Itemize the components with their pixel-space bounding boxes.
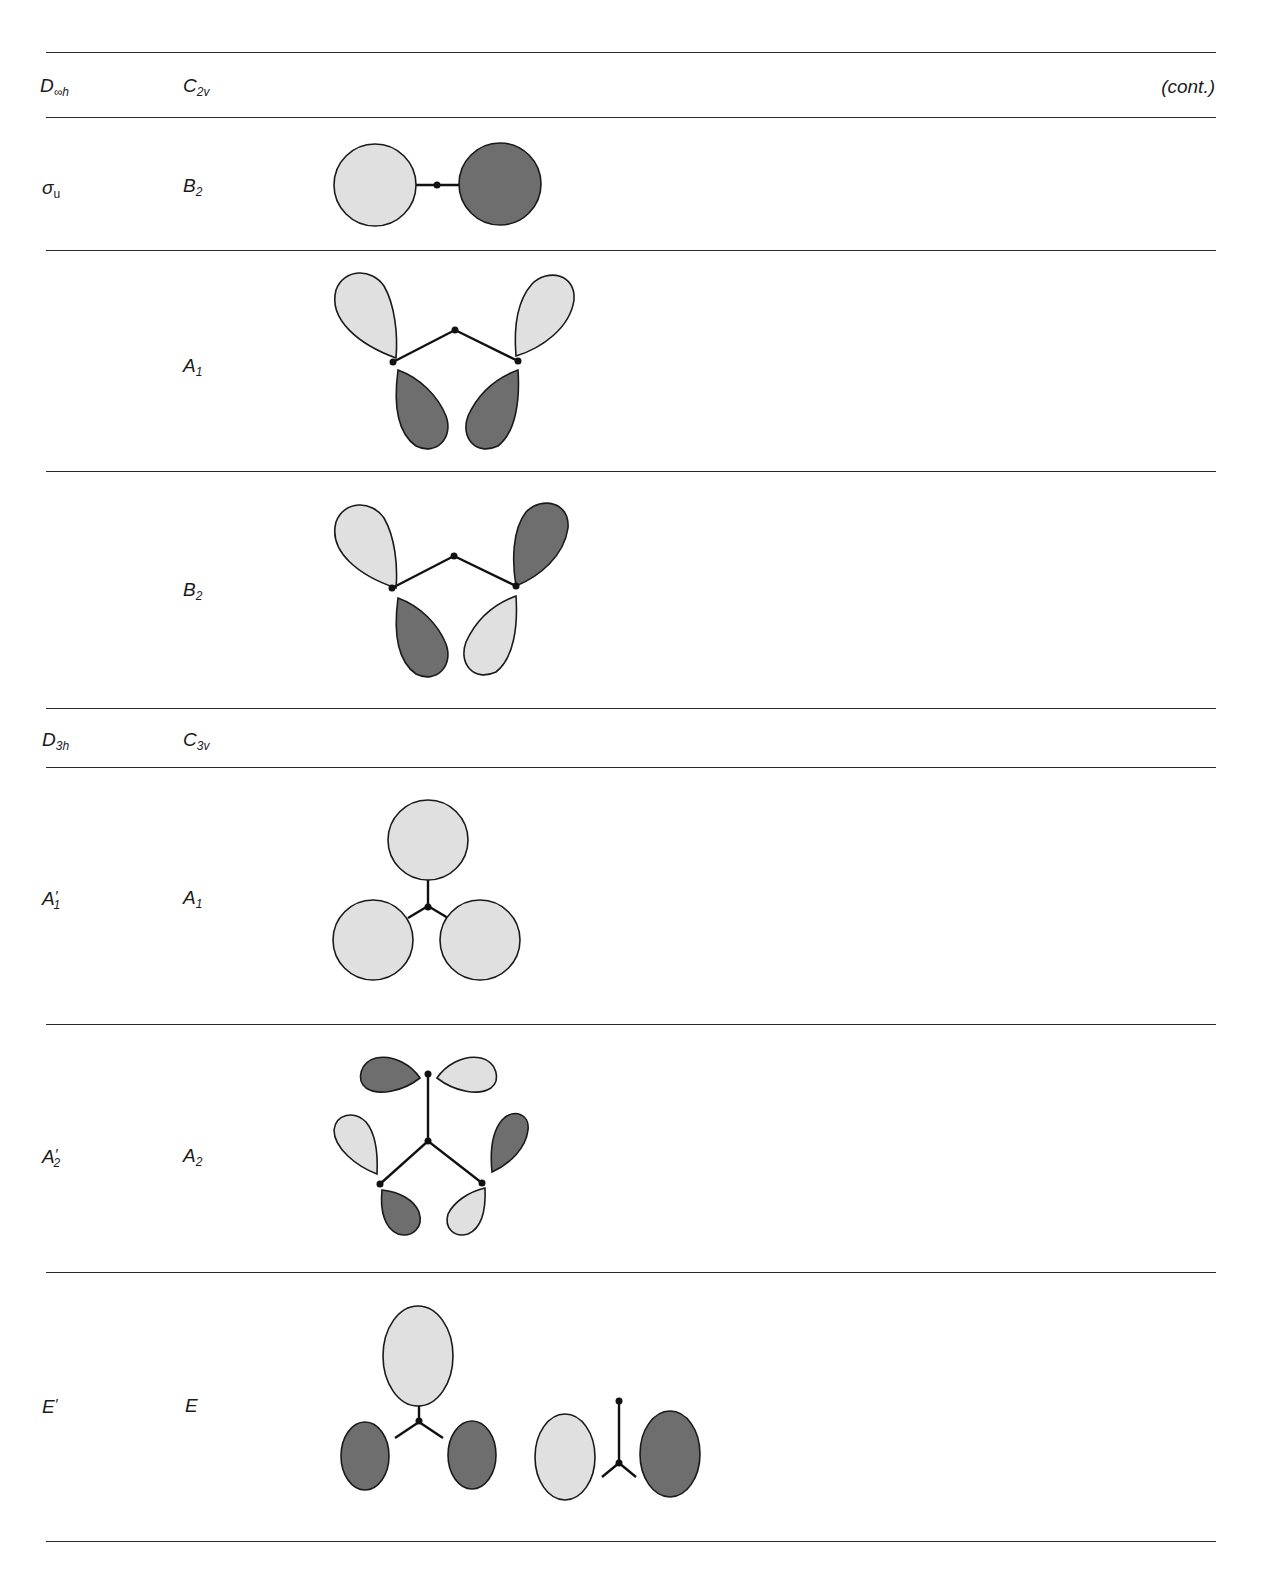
table-rule-header [46,117,1216,118]
label-base: E [42,1396,55,1417]
orbital-diagram-linear-b2 [320,130,560,240]
label-base: B [183,175,196,196]
orbital-diagram-bent-a1 [320,260,590,460]
table-rule-section [46,708,1216,709]
row-low-label: A2 [183,1146,202,1168]
header-group-high: D3h [42,730,69,752]
label-base: A [42,888,55,909]
label-sub: 1 [196,897,203,911]
header-group-low: C2v [183,76,209,98]
row-low-label: A1 [183,888,202,910]
header-group-low: C3v [183,730,209,752]
row-low-label: E [185,1396,198,1415]
label-sub: 2 [54,1156,61,1170]
row-high-label: E′ [42,1396,58,1416]
label-sub: 1 [196,365,203,379]
row-high-label: σu [42,178,60,200]
label-base: σ [42,177,53,198]
label-base: A [183,1145,196,1166]
table-rule-row [46,250,1216,251]
label-base: A [183,355,196,376]
table-rule-bottom [46,1541,1216,1542]
label-sub: 2v [197,85,210,99]
label-base: C [183,75,197,96]
label-base: C [183,729,197,750]
orbital-diagram-trigonal-e-component-1 [320,1300,520,1500]
row-low-label: B2 [183,176,202,198]
label-base: A [183,887,196,908]
orbital-diagram-trigonal-e-component-2 [510,1340,730,1510]
orbital-diagram-trigonal-a2 [320,1040,540,1250]
label-sub: 3h [56,739,69,753]
label-sub: u [53,187,60,201]
label-sub: 3v [197,739,210,753]
running-head [470,0,890,8]
table-rule-row [46,1272,1216,1273]
label-base: D [42,729,56,750]
label-sub: 2 [196,589,203,603]
label-base: E [185,1395,198,1416]
table-rule-header [46,767,1216,768]
table-rule-top [46,52,1216,53]
label-prime: ′ [55,1395,58,1412]
label-base: B [183,579,196,600]
row-low-label: A1 [183,356,202,378]
continuation-note: (cont.) [1161,76,1215,98]
table-rule-row [46,1024,1216,1025]
label-sub: 2 [196,185,203,199]
row-high-label: A′1 [42,888,60,911]
orbital-diagram-bent-b2 [320,490,590,690]
table-rule-row [46,471,1216,472]
label-sub: ∞h [54,85,69,99]
label-base: A [42,1146,55,1167]
header-group-high: D∞h [40,76,69,98]
row-high-label: A′2 [42,1146,60,1169]
label-sub: 1 [54,898,61,912]
orbital-diagram-trigonal-a1 [320,790,540,990]
row-low-label: B2 [183,580,202,602]
label-sub: 2 [196,1155,203,1169]
label-base: D [40,75,54,96]
continuation-text: (cont.) [1161,76,1215,97]
